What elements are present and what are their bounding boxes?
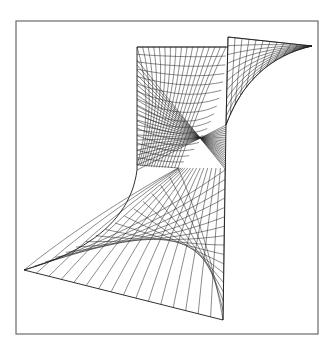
- figure-frame: [16, 21, 318, 334]
- surface-mesh: [24, 37, 312, 320]
- wireframe-surface-figure: [0, 0, 336, 354]
